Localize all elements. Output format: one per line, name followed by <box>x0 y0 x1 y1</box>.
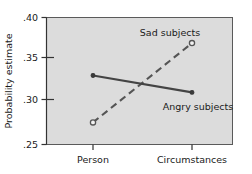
x-category-label-person: Person <box>77 154 109 165</box>
data-point-angry-circumstances <box>190 91 194 95</box>
y-tick-label-30: .30 <box>23 94 38 105</box>
data-point-angry-person <box>91 74 95 78</box>
probability-estimate-line-chart: .40 .35 .30 .25 Probability estimate Per… <box>0 0 252 174</box>
y-tick-label-25: .25 <box>23 139 38 150</box>
chart-figure: .40 .35 .30 .25 Probability estimate Per… <box>0 0 252 174</box>
data-point-sad-circumstances <box>189 41 194 46</box>
y-tick-label-35: .35 <box>23 52 38 63</box>
series-annotation-sad-subjects: Sad subjects <box>140 27 200 38</box>
y-tick-label-40: .40 <box>23 12 38 23</box>
y-axis-title: Probability estimate <box>3 33 14 128</box>
x-category-label-circumstances: Circumstances <box>157 154 227 165</box>
data-point-sad-person <box>90 120 95 125</box>
series-annotation-angry-subjects: Angry subjects <box>163 101 234 112</box>
